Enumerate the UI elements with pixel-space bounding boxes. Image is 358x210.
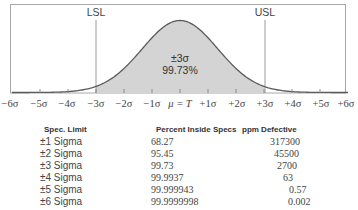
cell-percent: 99.73	[151, 160, 174, 171]
cell-ppm: 0.57	[289, 184, 307, 195]
cell-spec: ±6 Sigma	[40, 196, 82, 207]
table-row: ±5 Sigma 99.999943 0.57	[0, 184, 358, 196]
tick-label-plus4: +4σ	[285, 98, 302, 109]
tick-label-minus1: −1σ	[144, 98, 161, 109]
table-row: ±1 Sigma 68.27 317300	[0, 136, 358, 148]
cell-spec: ±4 Sigma	[40, 172, 82, 183]
table-row: ±3 Sigma 99.73 2700	[0, 160, 358, 172]
cell-spec: ±2 Sigma	[40, 148, 82, 159]
cell-ppm: 2700	[277, 160, 297, 171]
cell-spec: ±5 Sigma	[40, 184, 82, 195]
tick-label-plus3: +3σ	[257, 98, 274, 109]
center-annotation-percent: 99.73%	[162, 64, 198, 76]
cell-spec: ±1 Sigma	[40, 136, 82, 147]
cell-ppm: 0.002	[288, 196, 311, 207]
cell-percent: 95.45	[151, 148, 174, 159]
usl-label: USL	[255, 6, 276, 18]
tick-label-minus3: −3σ	[88, 98, 105, 109]
tick-label-plus6: +6σ	[338, 98, 355, 109]
center-annotation-sigma: ±3σ	[171, 52, 190, 64]
tick-label-minus2: −2σ	[116, 98, 133, 109]
cell-ppm: 45500	[274, 148, 299, 159]
cell-percent: 99.9999998	[151, 196, 199, 207]
table-row: ±4 Sigma 99.9937 63	[0, 172, 358, 184]
table-row: ±2 Sigma 95.45 45500	[0, 148, 358, 160]
lsl-label: LSL	[87, 6, 106, 18]
header-spec-limit: Spec. Limit	[44, 125, 87, 134]
tick-label-minus5: −5σ	[31, 98, 48, 109]
cell-ppm: 63	[283, 172, 293, 183]
normal-distribution-chart: LSL USL ±3σ 99.73% −6σ −5σ −4σ −3σ −2σ −…	[0, 0, 358, 112]
tick-label-plus5: +5σ	[313, 98, 330, 109]
tick-label-minus6: −6σ	[2, 98, 19, 109]
tick-label-mean: μ = T	[167, 98, 193, 109]
cell-spec: ±3 Sigma	[40, 160, 82, 171]
cell-percent: 99.999943	[151, 184, 194, 195]
tick-label-minus4: −4σ	[59, 98, 76, 109]
cell-percent: 68.27	[151, 136, 174, 147]
table-row: ±6 Sigma 99.9999998 0.002	[0, 196, 358, 208]
tick-label-plus2: +2σ	[229, 98, 246, 109]
cell-ppm: 317300	[270, 136, 300, 147]
cell-percent: 99.9937	[151, 172, 184, 183]
header-percent-inside: Percent Inside Specs	[156, 125, 236, 134]
header-ppm-defective: ppm Defective	[242, 125, 297, 134]
tick-label-plus1: +1σ	[200, 98, 217, 109]
